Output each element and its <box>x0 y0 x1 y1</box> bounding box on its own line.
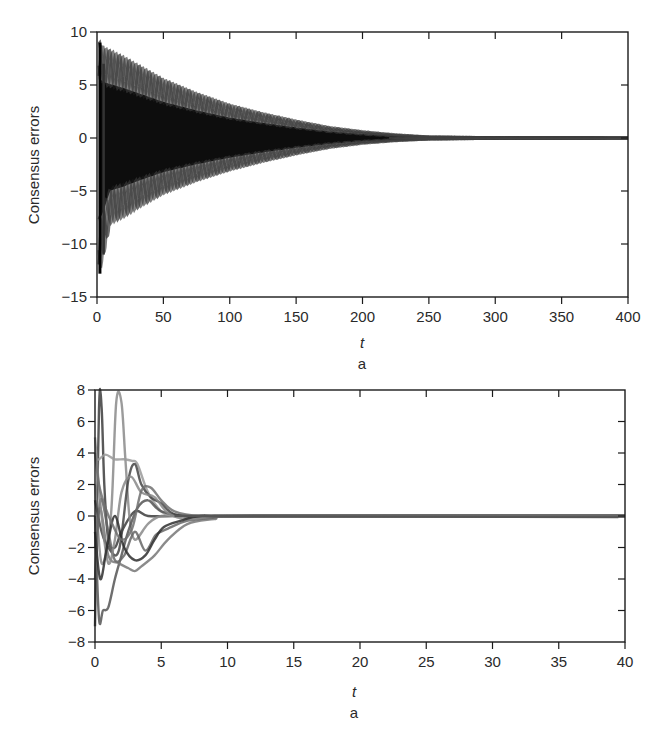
bottom-panel-caption: a <box>350 704 359 721</box>
x-tick-label: 10 <box>219 653 236 670</box>
x-tick-label: 40 <box>617 653 634 670</box>
top-y-axis-label: Consensus errors <box>25 106 42 224</box>
x-tick-label: 200 <box>350 308 375 325</box>
x-tick-label: 20 <box>352 653 369 670</box>
x-tick-label: 15 <box>285 653 302 670</box>
trace-line-e1 <box>95 389 625 626</box>
y-tick-label: 4 <box>77 444 85 461</box>
y-tick-label: 10 <box>70 23 87 40</box>
x-tick-label: 30 <box>484 653 501 670</box>
x-tick-label: 350 <box>549 308 574 325</box>
y-tick-label: −8 <box>68 633 85 650</box>
bottom-plot-traces <box>95 389 625 626</box>
top-panel-caption: a <box>358 355 367 372</box>
y-tick-label: −6 <box>68 602 85 619</box>
figure-canvas: 050100150200250300350400−15−10−50510 Con… <box>0 0 653 743</box>
trace-converged <box>389 138 628 139</box>
y-tick-label: −10 <box>62 235 87 252</box>
x-tick-label: 0 <box>93 308 101 325</box>
y-tick-label: 6 <box>77 413 85 430</box>
top-x-axis-label: t <box>360 334 365 351</box>
x-tick-label: 150 <box>284 308 309 325</box>
y-tick-label: 8 <box>77 381 85 398</box>
x-tick-label: 300 <box>483 308 508 325</box>
x-tick-label: 35 <box>550 653 567 670</box>
figure: 050100150200250300350400−15−10−50510 Con… <box>0 0 653 743</box>
y-tick-label: −5 <box>70 182 87 199</box>
x-tick-label: 5 <box>157 653 165 670</box>
y-tick-label: −2 <box>68 539 85 556</box>
trace-line-e6 <box>95 464 625 555</box>
trace-line-e3 <box>95 455 625 517</box>
y-tick-label: 2 <box>77 476 85 493</box>
x-tick-label: 50 <box>155 308 172 325</box>
x-tick-label: 0 <box>91 653 99 670</box>
trace-line-e2 <box>95 392 625 564</box>
panel-top-consensus-errors: 050100150200250300350400−15−10−50510 Con… <box>25 23 641 372</box>
x-tick-label: 250 <box>416 308 441 325</box>
x-tick-label: 25 <box>418 653 435 670</box>
y-tick-label: 0 <box>77 507 85 524</box>
bottom-x-axis-label: t <box>352 683 357 700</box>
y-tick-label: 5 <box>79 76 87 93</box>
trace-line-e4 <box>95 500 625 624</box>
trace-line-e8 <box>95 437 625 564</box>
y-tick-label: −15 <box>62 288 87 305</box>
bottom-y-axis-label: Consensus errors <box>25 457 42 575</box>
panel-bottom-consensus-errors: 0510152025303540−8−6−4−202468 Consensus … <box>25 381 633 721</box>
top-plot-traces <box>99 43 628 274</box>
y-tick-label: 0 <box>79 129 87 146</box>
y-tick-label: −4 <box>68 570 85 587</box>
bottom-axis-ticks: 0510152025303540−8−6−4−202468 <box>68 381 633 670</box>
x-tick-label: 400 <box>615 308 640 325</box>
trace-converged <box>175 516 619 517</box>
x-tick-label: 100 <box>217 308 242 325</box>
